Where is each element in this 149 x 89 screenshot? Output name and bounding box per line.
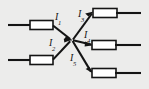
branch-i1-resistor-box: [30, 21, 53, 30]
current-label-i1-subscript: 1: [58, 19, 61, 26]
branch-i4-resistor-box: [92, 41, 116, 50]
current-label-i3: I3: [78, 9, 85, 22]
branch-i5-resistor-box: [92, 69, 116, 78]
current-label-i4: I4: [84, 30, 91, 43]
current-label-i2-subscript: 2: [52, 45, 55, 52]
circuit-schematic-svg: [0, 0, 149, 89]
branch-i3-resistor-box: [93, 9, 117, 18]
current-label-i2: I2: [49, 38, 56, 51]
current-label-i5-subscript: 5: [73, 60, 76, 67]
branch-i1: [8, 21, 72, 41]
circuit-junction-figure: I1 I2 I3 I4 I5: [0, 0, 149, 89]
current-label-i5: I5: [70, 53, 77, 66]
current-label-i3-subscript: 3: [81, 16, 84, 23]
current-label-i4-subscript: 4: [87, 37, 90, 44]
branch-i2: [8, 39, 72, 65]
branch-i2-resistor-box: [30, 56, 53, 65]
current-label-i1: I1: [55, 12, 62, 25]
